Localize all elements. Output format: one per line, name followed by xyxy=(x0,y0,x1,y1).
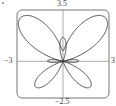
x-max-label: 3 xyxy=(111,57,115,65)
polar-plot xyxy=(0,0,116,106)
x-min-label: −3 xyxy=(4,57,13,65)
corner-mark xyxy=(2,2,4,4)
y-min-label: −2.5 xyxy=(55,98,70,106)
y-max-label: 3.5 xyxy=(57,0,67,8)
